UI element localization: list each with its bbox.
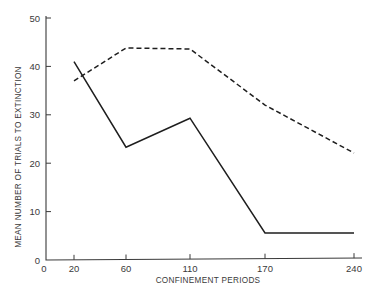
x-tick-label: 20: [69, 263, 80, 274]
x-tick-label: 170: [257, 263, 273, 274]
x-tick-label: 0: [41, 263, 46, 274]
x-tick-label: 110: [182, 263, 197, 274]
y-axis-ticks: 01020304050: [29, 13, 51, 266]
x-axis-title: CONFINEMENT PERIODS: [156, 276, 261, 285]
y-axis-title: MEAN NUMBER OF TRIALS TO EXTINCTION: [14, 66, 23, 248]
series-dashed-line: [74, 48, 354, 153]
y-tick-label: 20: [29, 158, 40, 169]
y-tick-label: 50: [29, 13, 40, 24]
axis-lines: [46, 16, 362, 260]
x-tick-label: 240: [346, 263, 362, 274]
axes: [46, 16, 362, 260]
x-axis-ticks: 02060110170240: [41, 253, 362, 274]
y-tick-label: 10: [29, 206, 40, 217]
y-tick-label: 0: [35, 255, 40, 266]
y-tick-label: 30: [29, 109, 40, 120]
line-chart: 01020304050 02060110170240 CONFINEMENT P…: [0, 0, 375, 293]
series-solid-line: [74, 62, 354, 233]
x-tick-label: 60: [121, 263, 132, 274]
series-group: [74, 48, 354, 233]
y-tick-label: 40: [29, 61, 40, 72]
